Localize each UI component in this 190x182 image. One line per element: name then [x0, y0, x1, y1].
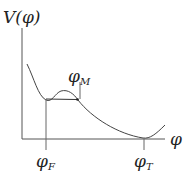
exit-point-dot: [76, 98, 79, 101]
y-axis-label: V(φ): [3, 7, 40, 27]
phi-F-label: φF: [36, 151, 56, 172]
phi-M-label: φM: [68, 66, 91, 87]
tunneling-line: [46, 99, 77, 100]
x-axis-label: φ: [170, 129, 182, 149]
phi-T-label: φT: [134, 151, 154, 172]
potential-diagram: V(φ) φ φM φF φT: [0, 0, 190, 182]
potential-curve: [27, 64, 165, 138]
